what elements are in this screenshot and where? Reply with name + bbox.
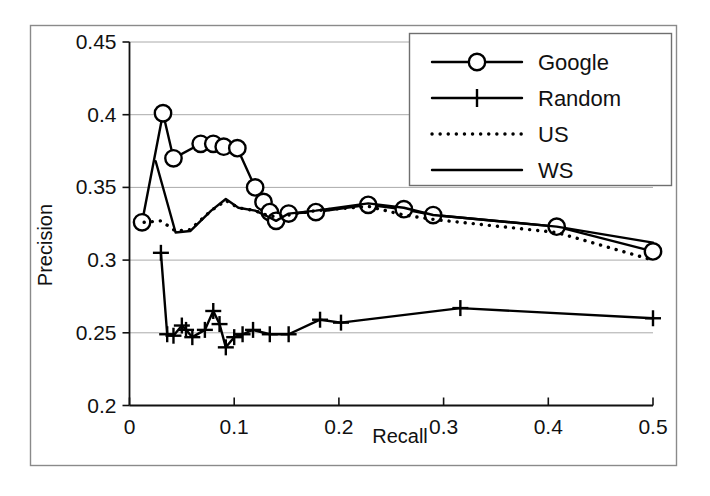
- data-point-marker: [165, 150, 181, 166]
- y-tick-label: 0.3: [87, 248, 116, 271]
- data-point-marker: [155, 105, 171, 121]
- y-axis-title: Precision: [34, 204, 56, 286]
- y-tick-label: 0.45: [76, 30, 117, 53]
- x-tick-label: 0.3: [429, 415, 458, 438]
- y-tick-label: 0.4: [87, 103, 117, 126]
- legend-marker-circle-icon: [469, 54, 485, 70]
- y-tick-label: 0.35: [76, 175, 117, 198]
- legend-label: US: [538, 122, 569, 147]
- legend-label: Google: [538, 50, 609, 75]
- legend-label: Random: [538, 86, 621, 111]
- x-tick-label: 0.5: [638, 415, 667, 438]
- legend-label: WS: [538, 158, 573, 183]
- x-tick-label: 0.1: [220, 415, 249, 438]
- x-tick-label: 0.4: [534, 415, 564, 438]
- data-point-marker: [134, 214, 150, 230]
- data-point-marker: [229, 140, 245, 156]
- chart-figure: 0.20.250.30.350.40.45 00.10.20.30.40.5 P…: [0, 0, 710, 496]
- y-tick-label: 0.2: [87, 394, 116, 417]
- x-tick-label: 0.2: [324, 415, 353, 438]
- y-tick-label: 0.25: [76, 321, 117, 344]
- x-axis-title: Recall: [372, 425, 428, 447]
- x-tick-label: 0: [124, 415, 136, 438]
- precision-recall-chart: 0.20.250.30.350.40.45 00.10.20.30.40.5 P…: [0, 0, 710, 496]
- chart-legend: GoogleRandomUSWS: [410, 34, 672, 186]
